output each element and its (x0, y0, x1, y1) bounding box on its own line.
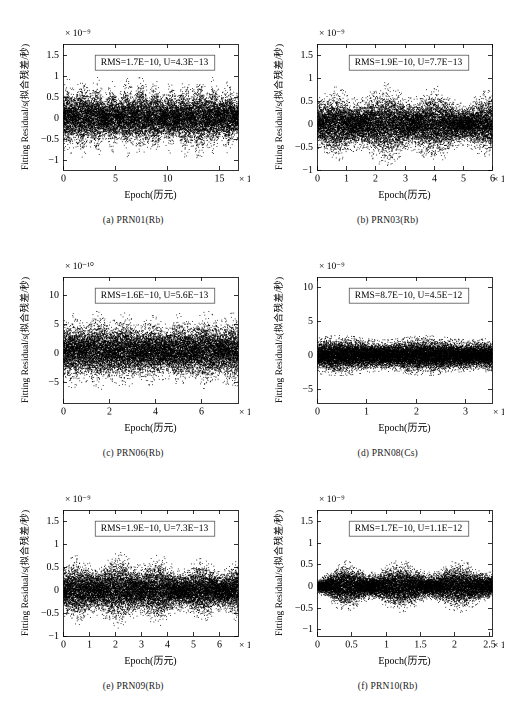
plot-area-e (17, 484, 250, 680)
subplot-b: (b) PRN03(Rb) (261, 18, 516, 251)
subplot-caption-d: (d) PRN08(Cs) (358, 448, 418, 458)
subplot-caption-a: (a) PRN01(Rb) (103, 215, 164, 225)
plot-area-b (271, 18, 504, 214)
subplot-a: (a) PRN01(Rb) (6, 18, 261, 251)
plot-area-a (17, 18, 250, 214)
residual-scatter-b (271, 18, 504, 214)
subplot-caption-e: (e) PRN09(Rb) (103, 681, 164, 691)
residual-scatter-f (271, 484, 504, 680)
residual-figure-grid: (a) PRN01(Rb)(b) PRN03(Rb)(c) PRN06(Rb)(… (0, 0, 521, 725)
plot-area-d (271, 251, 504, 447)
subplot-caption-b: (b) PRN03(Rb) (357, 215, 418, 225)
residual-scatter-c (17, 251, 250, 447)
plot-area-f (271, 484, 504, 680)
plot-area-c (17, 251, 250, 447)
subplot-e: (e) PRN09(Rb) (6, 484, 261, 717)
subplot-c: (c) PRN06(Rb) (6, 251, 261, 484)
subplot-caption-f: (f) PRN10(Rb) (358, 681, 418, 691)
subplot-caption-c: (c) PRN06(Rb) (103, 448, 164, 458)
residual-scatter-a (17, 18, 250, 214)
subplot-d: (d) PRN08(Cs) (261, 251, 516, 484)
residual-scatter-e (17, 484, 250, 680)
residual-scatter-d (271, 251, 504, 447)
subplot-f: (f) PRN10(Rb) (261, 484, 516, 717)
